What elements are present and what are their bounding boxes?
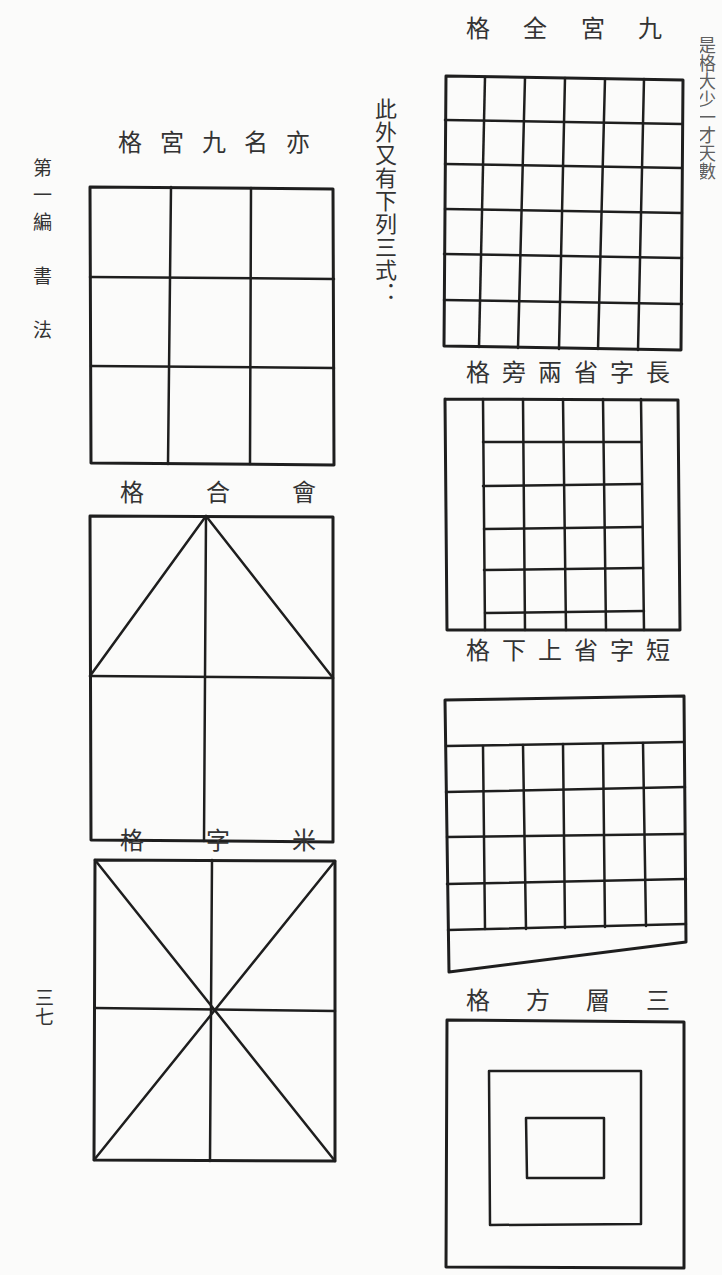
grid-title-duanzi: 格 下 上 省 字 短 [466, 636, 670, 666]
title-char: 字 [610, 636, 634, 666]
title-char: 字 [206, 826, 230, 856]
title-char: 全 [523, 14, 547, 44]
title-char: 九 [202, 128, 226, 158]
grid-title-changzi: 格 旁 兩 省 字 長 [466, 358, 670, 388]
title-char: 方 [526, 986, 550, 1016]
huihe-grid [88, 514, 336, 844]
sanceng-grid [444, 1018, 688, 1270]
mizi-grid [92, 858, 338, 1164]
title-char: 亦 [286, 128, 310, 158]
jiugong-alt-grid [88, 185, 336, 467]
title-char: 格 [466, 986, 490, 1016]
intro-note: 此外又有下列三式： [370, 98, 396, 305]
changzi-grid [442, 396, 682, 632]
grid-title-jiugong-alt: 格 宮 九 名 亦 [118, 128, 310, 158]
title-char: 宮 [160, 128, 184, 158]
edge-text-fragment: 是格大少一才天數 [700, 36, 716, 756]
title-char: 省 [574, 636, 598, 666]
duanzi-grid [443, 696, 689, 974]
title-char: 長 [646, 358, 670, 388]
title-char: 格 [466, 636, 490, 666]
running-head: 第一編 書 法 [30, 158, 52, 347]
grid-title-jiugong-quan: 格 全 宮 九 [466, 14, 662, 44]
title-char: 兩 [538, 358, 562, 388]
grid-title-sanceng: 格 方 層 三 [466, 986, 670, 1016]
title-char: 合 [206, 478, 230, 508]
title-char: 九 [638, 14, 662, 44]
title-char: 米 [292, 826, 316, 856]
title-char: 省 [574, 358, 598, 388]
title-char: 格 [118, 128, 142, 158]
title-char: 格 [120, 826, 144, 856]
grid-title-mizi: 格 字 米 [120, 826, 316, 856]
title-char: 上 [538, 636, 562, 666]
grid-title-huihe: 格 合 會 [120, 478, 316, 508]
title-char: 旁 [502, 358, 526, 388]
title-char: 名 [244, 128, 268, 158]
title-char: 字 [610, 358, 634, 388]
title-char: 三 [646, 986, 670, 1016]
title-char: 層 [586, 986, 610, 1016]
title-char: 宮 [581, 14, 605, 44]
title-char: 格 [120, 478, 144, 508]
page-number: 三七 [32, 988, 54, 1026]
title-char: 格 [466, 14, 490, 44]
title-char: 下 [502, 636, 526, 666]
title-char: 格 [466, 358, 490, 388]
jiugong-quan-grid [442, 74, 686, 352]
title-char: 會 [292, 478, 316, 508]
title-char: 短 [646, 636, 670, 666]
